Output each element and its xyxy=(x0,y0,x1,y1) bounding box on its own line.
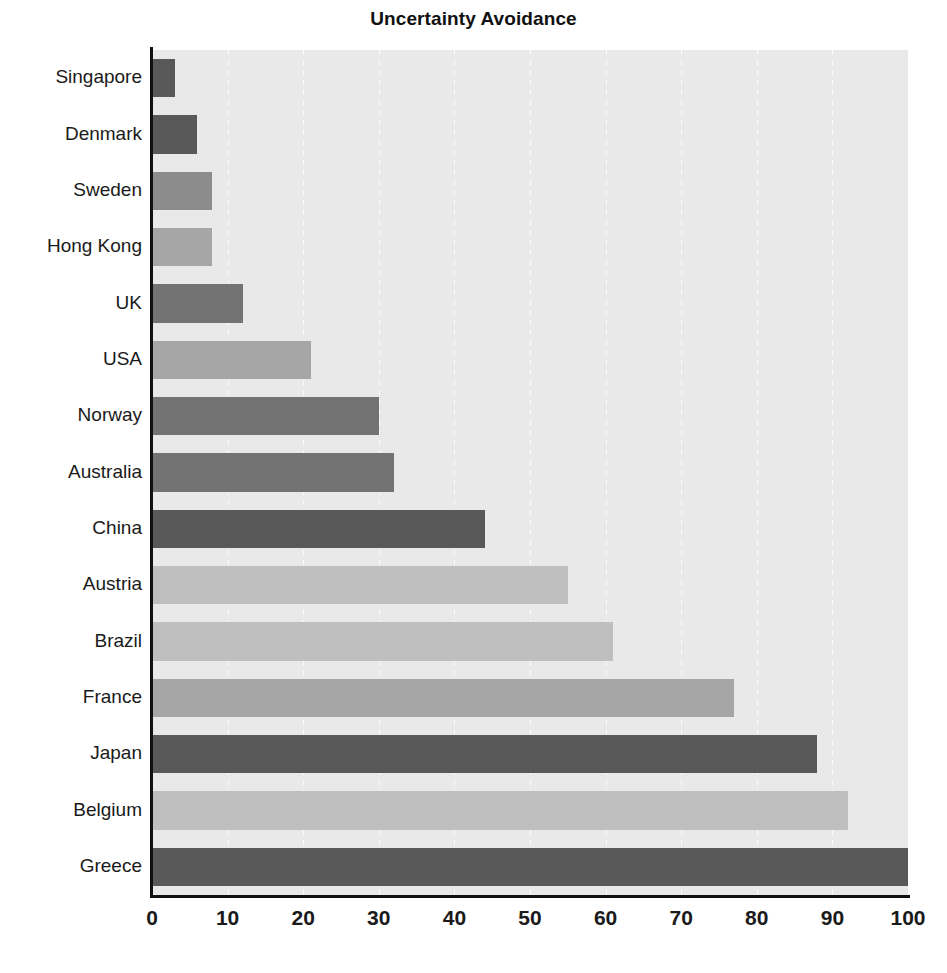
bar-belgium[interactable] xyxy=(152,791,848,829)
bars-layer xyxy=(152,50,908,895)
x-tick-label-80: 80 xyxy=(745,906,768,930)
bar-austria[interactable] xyxy=(152,566,568,604)
x-tick-label-90: 90 xyxy=(821,906,844,930)
x-tick-label-60: 60 xyxy=(594,906,617,930)
bar-row xyxy=(152,397,908,435)
bar-australia[interactable] xyxy=(152,453,394,491)
bar-row xyxy=(152,341,908,379)
x-tick-label-40: 40 xyxy=(443,906,466,930)
x-tick-label-100: 100 xyxy=(890,906,925,930)
y-tick-label-usa: USA xyxy=(0,348,142,370)
bar-hong-kong[interactable] xyxy=(152,228,212,266)
y-tick-label-brazil: Brazil xyxy=(0,630,142,652)
x-tick-label-20: 20 xyxy=(292,906,315,930)
bar-singapore[interactable] xyxy=(152,59,175,97)
bar-greece[interactable] xyxy=(152,848,908,886)
y-tick-label-australia: Australia xyxy=(0,461,142,483)
y-tick-label-austria: Austria xyxy=(0,573,142,595)
y-tick-label-japan: Japan xyxy=(0,742,142,764)
x-tick-label-10: 10 xyxy=(216,906,239,930)
bar-uk[interactable] xyxy=(152,284,243,322)
y-tick-label-china: China xyxy=(0,517,142,539)
y-axis-line xyxy=(150,47,153,898)
bar-norway[interactable] xyxy=(152,397,379,435)
bar-row xyxy=(152,115,908,153)
bar-row xyxy=(152,622,908,660)
bar-usa[interactable] xyxy=(152,341,311,379)
x-tick-label-50: 50 xyxy=(518,906,541,930)
bar-row xyxy=(152,453,908,491)
bar-row xyxy=(152,228,908,266)
bar-row xyxy=(152,735,908,773)
x-axis-line xyxy=(150,895,910,898)
plot-area xyxy=(152,50,908,895)
y-tick-label-uk: UK xyxy=(0,292,142,314)
bar-row xyxy=(152,791,908,829)
y-tick-label-norway: Norway xyxy=(0,404,142,426)
x-axis-tick-labels: 0102030405060708090100 xyxy=(0,906,947,946)
bar-row xyxy=(152,679,908,717)
chart-title: Uncertainty Avoidance xyxy=(0,8,947,30)
bar-brazil[interactable] xyxy=(152,622,613,660)
bar-row xyxy=(152,510,908,548)
bar-row xyxy=(152,848,908,886)
bar-france[interactable] xyxy=(152,679,734,717)
bar-row xyxy=(152,284,908,322)
bar-sweden[interactable] xyxy=(152,172,212,210)
bar-row xyxy=(152,566,908,604)
y-tick-label-belgium: Belgium xyxy=(0,799,142,821)
bar-china[interactable] xyxy=(152,510,485,548)
x-tick-label-0: 0 xyxy=(146,906,158,930)
uncertainty-avoidance-chart: Uncertainty Avoidance SingaporeDenmarkSw… xyxy=(0,0,947,973)
bar-row xyxy=(152,172,908,210)
x-tick-label-30: 30 xyxy=(367,906,390,930)
bar-denmark[interactable] xyxy=(152,115,197,153)
bar-row xyxy=(152,59,908,97)
y-tick-label-denmark: Denmark xyxy=(0,123,142,145)
bar-japan[interactable] xyxy=(152,735,817,773)
y-tick-label-sweden: Sweden xyxy=(0,179,142,201)
y-tick-label-greece: Greece xyxy=(0,855,142,877)
y-tick-label-singapore: Singapore xyxy=(0,66,142,88)
y-tick-label-france: France xyxy=(0,686,142,708)
x-tick-label-70: 70 xyxy=(670,906,693,930)
y-tick-label-hong-kong: Hong Kong xyxy=(0,235,142,257)
y-axis-tick-labels: SingaporeDenmarkSwedenHong KongUKUSANorw… xyxy=(0,50,142,895)
